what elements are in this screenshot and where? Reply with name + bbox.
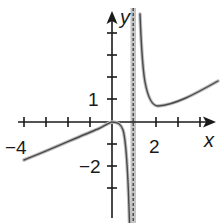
right-branch	[140, 14, 218, 106]
y-tick-label-1: 1	[88, 89, 99, 110]
y-axis	[107, 20, 117, 218]
x-tick-label-2: 2	[149, 136, 160, 157]
y-tick-label-neg2: −2	[79, 156, 101, 177]
function-graph: y x −4 2 1 −2	[0, 0, 221, 223]
vertical-asymptote	[131, 8, 137, 223]
y-axis-label: y	[118, 6, 131, 28]
left-branch	[24, 122, 130, 223]
x-tick-label-neg4: −4	[5, 137, 27, 158]
x-axis-label: x	[203, 129, 215, 151]
